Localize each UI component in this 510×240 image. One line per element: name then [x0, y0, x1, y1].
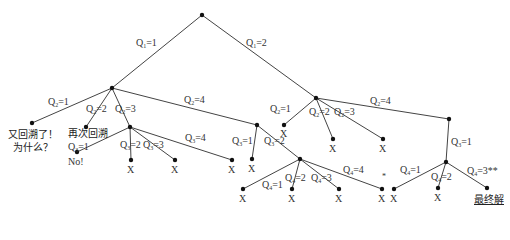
- dead-end-x: X: [390, 194, 397, 204]
- edge-label-q3-1: Q3=1: [68, 142, 89, 153]
- dead-end-x: X: [171, 165, 178, 175]
- edge-label-q3-3: Q3=3: [143, 140, 164, 151]
- dead-end-x: X: [280, 129, 287, 139]
- edge-label-q3-1b: Q3=1: [232, 136, 253, 147]
- edge-label-q1-1: Q1=1: [136, 38, 157, 49]
- annotation-why-line2: 为什么？: [5, 141, 61, 154]
- annotation-no: No!: [68, 157, 84, 167]
- dead-end-x: X: [378, 194, 385, 204]
- dead-end-x: X: [335, 194, 342, 204]
- edge-label-q2-1b: Q2=1: [270, 104, 291, 115]
- edge-label-q2-4: Q2=4: [184, 95, 205, 106]
- annotation-backtrack-again: 又回溯了！ 为什么？: [5, 128, 61, 154]
- edge-label-q4-1b: Q4=1: [400, 165, 421, 176]
- dead-end-x: X: [239, 194, 246, 204]
- dead-end-x: X: [288, 194, 295, 204]
- edge-label-q2-2: Q2=2: [86, 104, 107, 115]
- edge-label-q4-2b: Q4=2: [431, 172, 452, 183]
- edge-label-q2-3b: Q2=3: [334, 107, 355, 118]
- dead-end-x: X: [228, 165, 235, 175]
- edge-label-q4-4: Q4=4: [343, 165, 364, 176]
- annotation-final-solution: 最终解: [474, 193, 504, 206]
- edge-label-q3-2: Q3=2: [120, 140, 141, 151]
- edge-label-q4-2: Q4=2: [285, 173, 306, 184]
- edge-label-q2-2b: Q2=2: [309, 107, 330, 118]
- edge-label-q4-3: Q4=3: [311, 173, 332, 184]
- edge-label-q3-4: Q3=4: [185, 133, 206, 144]
- dead-end-x: X: [379, 144, 386, 154]
- edge-label-q2-3: Q2=3: [115, 104, 136, 115]
- edge-label-q1-2: Q1=2: [246, 38, 267, 49]
- edge-label-q2-4b: Q2=4: [370, 96, 391, 107]
- annotation-backtrack-twice: 再次回溯: [60, 127, 116, 140]
- annotation-star: *: [382, 173, 386, 181]
- dead-end-x: X: [127, 165, 134, 175]
- edge-label-q3-1c: Q3=1: [451, 137, 472, 148]
- edge-label-q4-3-final: Q4=3**: [467, 166, 498, 177]
- annotation-backtrack-line1: 又回溯了！: [5, 128, 61, 141]
- edge-label-q2-1: Q2=1: [48, 97, 69, 108]
- edge-label-q4-1: Q4=1: [262, 180, 283, 191]
- dead-end-x: X: [329, 144, 336, 154]
- dead-end-x: X: [248, 164, 255, 174]
- dead-end-x: X: [434, 193, 441, 203]
